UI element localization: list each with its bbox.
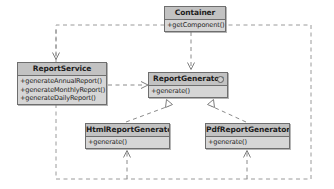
class-member: +generate() — [151, 87, 227, 96]
arrow-open-report-generator-from-service — [141, 82, 148, 89]
class-title-pdf-report-generator: PdfReportGenerator — [206, 124, 289, 137]
class-members-report-service: +generateAnnualReport() +generateMonthly… — [18, 76, 106, 104]
arrow-hollow-triangle-html — [166, 100, 173, 108]
class-box-report-service[interactable]: ReportService +generateAnnualReport() +g… — [17, 62, 107, 105]
arrow-hollow-triangle-pdf — [208, 100, 215, 108]
class-members-container: +getComponent() — [165, 20, 225, 31]
class-members-report-generator: +generate() — [149, 86, 227, 97]
class-title-report-service: ReportService — [18, 63, 106, 76]
class-title-container: Container — [165, 7, 225, 20]
interface-circle-icon — [217, 76, 224, 83]
class-box-pdf-report-generator[interactable]: PdfReportGenerator +generate() — [205, 123, 290, 149]
edge-pdf-realization-line — [211, 106, 246, 122]
class-member: +generate() — [88, 138, 169, 147]
class-title-text: ReportGenerator — [153, 74, 223, 83]
class-members-pdf-report-generator: +generate() — [206, 137, 289, 148]
class-members-html-report-generator: +generate() — [86, 137, 169, 148]
class-member: +generate() — [208, 138, 289, 147]
class-box-container[interactable]: Container +getComponent() — [164, 6, 226, 32]
uml-class-diagram: Container +getComponent() ReportService … — [0, 0, 334, 189]
class-member: +generateDailyReport() — [20, 94, 106, 103]
class-title-html-report-generator: HtmlReportGenerator — [86, 124, 169, 137]
class-box-html-report-generator[interactable]: HtmlReportGenerator +generate() — [85, 123, 170, 149]
class-box-report-generator[interactable]: ReportGenerator +generate() — [148, 72, 228, 98]
class-member: +generateMonthlyReport() — [20, 86, 106, 95]
class-title-report-generator: ReportGenerator — [149, 73, 227, 86]
class-member: +generateAnnualReport() — [20, 77, 106, 86]
edge-html-realization-line — [126, 106, 169, 122]
class-member: +getComponent() — [167, 21, 225, 30]
